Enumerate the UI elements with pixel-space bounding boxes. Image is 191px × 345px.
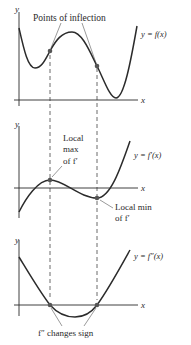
inflection-annotation: Points of inflection — [33, 13, 106, 23]
x-axis-label: x — [140, 95, 145, 105]
local-max-annotation-line3: of f′ — [63, 156, 78, 166]
local-max-point — [48, 178, 53, 183]
annotation-leader-right — [84, 308, 96, 326]
y-axis-label: y — [14, 119, 19, 129]
curve-f-double-prime — [19, 250, 130, 317]
sign-change-annotation: f″ changes sign — [38, 328, 94, 338]
annotation-leader-left — [51, 23, 61, 48]
sign-change-point-left — [48, 303, 53, 308]
curve-label-f-double-prime: y = f″(x) — [133, 251, 163, 261]
panel-f-double-prime: y x f″ changes sign y = f″(x) — [14, 235, 163, 338]
x-axis-label: x — [140, 183, 145, 193]
panel-f-prime: y x Local max of f′ Local min of f′ y = … — [14, 119, 162, 223]
local-max-annotation-line2: max — [63, 144, 79, 154]
annotation-leader-right — [82, 23, 96, 63]
local-min-annotation-line2: of f′ — [115, 213, 130, 223]
y-axis-label: y — [14, 235, 19, 245]
annotation-leader-max — [52, 166, 62, 177]
annotation-leader-min — [100, 200, 113, 208]
sign-change-point-right — [95, 303, 100, 308]
inflection-point-left — [48, 49, 53, 54]
local-min-point — [95, 196, 100, 201]
curve-label-f: y = f(x) — [140, 29, 167, 39]
curve-label-f-prime: y = f′(x) — [133, 150, 162, 160]
panel-f: y x Points of inflection y = f(x) — [14, 4, 167, 106]
y-axis-label: y — [14, 4, 19, 14]
x-axis-label: x — [140, 300, 145, 310]
local-min-annotation-line1: Local min — [115, 202, 152, 212]
curve-f — [19, 26, 137, 98]
inflection-point-right — [95, 64, 100, 69]
local-max-annotation-line1: Local — [63, 133, 84, 143]
derivative-diagram: y x Points of inflection y = f(x) y x Lo… — [0, 0, 191, 345]
